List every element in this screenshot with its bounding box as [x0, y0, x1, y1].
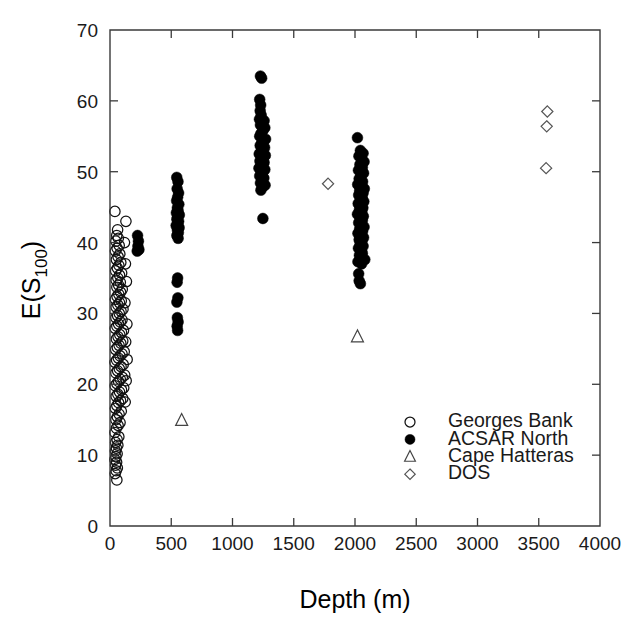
x-tick-label: 0: [105, 533, 116, 554]
x-tick-label: 3000: [456, 533, 498, 554]
x-tick-label: 500: [155, 533, 187, 554]
data-point: [172, 277, 183, 288]
y-tick-label: 70: [77, 20, 98, 41]
data-point: [355, 278, 366, 289]
data-point: [352, 132, 363, 143]
data-point: [256, 185, 267, 196]
y-tick-label: 0: [87, 516, 98, 537]
y-axis-title-main: E(S: [17, 278, 45, 320]
data-point: [356, 258, 367, 269]
x-tick-label: 4000: [579, 533, 621, 554]
scatter-plot-figure: 05001000150020002500300035004000 0102030…: [0, 0, 642, 626]
data-point: [171, 297, 182, 308]
legend-marker-filled-circle: [405, 434, 415, 444]
x-axis-tick-labels: 05001000150020002500300035004000: [105, 533, 621, 554]
y-tick-label: 40: [77, 233, 98, 254]
y-tick-label: 50: [77, 162, 98, 183]
y-tick-label: 30: [77, 303, 98, 324]
x-tick-label: 2000: [334, 533, 376, 554]
plot-canvas: 05001000150020002500300035004000 0102030…: [0, 0, 642, 626]
x-tick-label: 3500: [518, 533, 560, 554]
data-point: [132, 246, 143, 257]
y-tick-label: 60: [77, 91, 98, 112]
x-tick-label: 1000: [211, 533, 253, 554]
data-point: [172, 325, 183, 336]
y-axis-title-close: ): [17, 241, 45, 249]
y-tick-label: 10: [77, 445, 98, 466]
data-point: [257, 213, 268, 224]
x-tick-label: 2500: [395, 533, 437, 554]
y-tick-label: 20: [77, 374, 98, 395]
y-axis-title-subscript: 100: [32, 249, 51, 277]
x-tick-label: 1500: [273, 533, 315, 554]
data-point: [256, 73, 267, 84]
data-point: [173, 233, 184, 244]
legend-label: DOS: [448, 461, 490, 483]
x-axis-title: Depth (m): [299, 585, 410, 613]
